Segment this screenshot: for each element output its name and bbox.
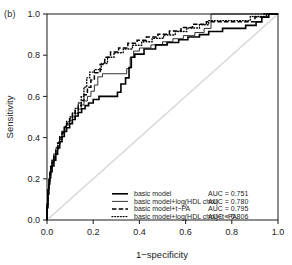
- y-tick-label: 0.8: [27, 50, 40, 60]
- y-tick-label: 0.6: [27, 92, 40, 102]
- y-axis-ticks: 0.00.20.40.60.81.0: [27, 9, 47, 225]
- x-tick-label: 1.0: [272, 227, 285, 237]
- roc-plot-svg: 0.00.20.40.60.81.0 0.00.20.40.60.81.0 1−…: [0, 0, 292, 265]
- legend-auc-value-3: AUC = 0.795: [208, 205, 248, 212]
- roc-figure: (b) 0.00.20.40.60.81.0 0.00.20.40.60.81.…: [0, 0, 292, 265]
- x-axis-ticks: 0.00.20.40.60.81.0: [41, 220, 285, 237]
- x-tick-label: 0.0: [41, 227, 54, 237]
- y-tick-label: 0.4: [27, 133, 40, 143]
- y-axis-title: Sensitivity: [4, 95, 15, 138]
- legend-label-1: basic model: [134, 190, 172, 197]
- x-tick-label: 0.4: [133, 227, 146, 237]
- x-tick-label: 0.8: [226, 227, 239, 237]
- legend-label-3: basic model+t−PA: [134, 205, 191, 212]
- x-axis-title: 1−specificity: [136, 249, 188, 260]
- legend-auc-value-4: AUC = 0.806: [208, 213, 248, 220]
- chart-legend: basic modelAUC = 0.751basic model+log(HD…: [112, 190, 248, 221]
- y-tick-label: 1.0: [27, 9, 40, 19]
- y-tick-label: 0.0: [27, 215, 40, 225]
- legend-auc-value-2: AUC = 0.780: [208, 198, 248, 205]
- y-tick-label: 0.2: [27, 174, 40, 184]
- legend-auc-value-1: AUC = 0.751: [208, 190, 248, 197]
- x-tick-label: 0.6: [179, 227, 192, 237]
- x-tick-label: 0.2: [87, 227, 100, 237]
